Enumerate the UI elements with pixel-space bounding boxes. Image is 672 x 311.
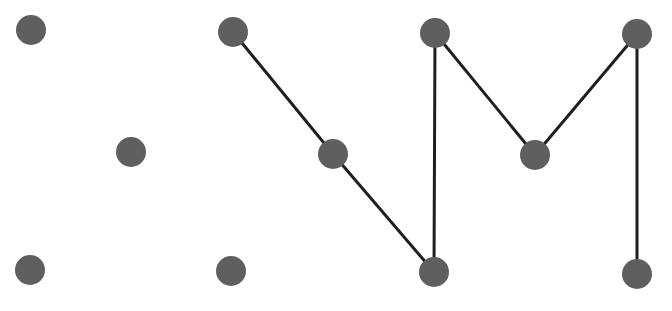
node-n2 [218,17,248,47]
node-n1 [16,15,46,45]
graph-diagram [0,0,672,311]
node-n10 [419,257,449,287]
edge-layer [233,32,637,274]
edge-n3-n7 [435,33,535,155]
node-n4 [622,19,652,49]
node-n5 [116,137,146,167]
edge-n7-n4 [535,34,637,155]
edge-n3-n10 [434,33,435,272]
node-n11 [622,259,652,289]
diagram-canvas [0,0,672,311]
node-n7 [520,140,550,170]
node-n6 [318,139,348,169]
edge-n6-n10 [333,154,434,272]
node-n3 [420,18,450,48]
node-n8 [15,255,45,285]
node-n9 [216,256,246,286]
edge-n2-n6 [233,32,333,154]
node-layer [15,15,652,289]
